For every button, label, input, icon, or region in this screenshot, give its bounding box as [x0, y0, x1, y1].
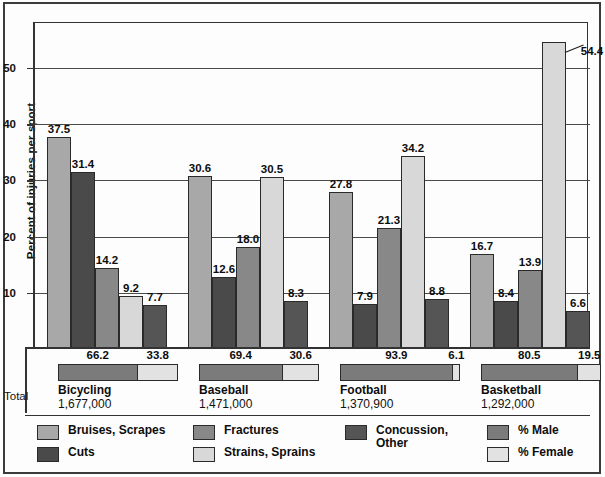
legend-item-percent-male[interactable]: % Male: [487, 424, 559, 440]
legend-label: Bruises, Scrapes: [68, 424, 165, 437]
female-segment: [282, 365, 318, 380]
legend-swatch-percent-female: [487, 447, 509, 462]
sport-name: Baseball: [199, 383, 319, 397]
bar-basketball-cuts: [494, 301, 518, 348]
legend-item-percent-female[interactable]: % Female: [487, 446, 573, 462]
bar-bicycling-cuts: [71, 172, 95, 348]
female-percent-label: 33.8: [147, 349, 169, 361]
plot-area: 1020304050 37.531.414.29.27.730.612.618.…: [33, 22, 588, 348]
sport-name: Bicycling: [58, 383, 178, 397]
bar-value-label: 9.2: [123, 282, 139, 294]
bar-value-label: 31.4: [72, 158, 94, 170]
bar-football-strains: [401, 156, 425, 348]
bar-value-label: 8.3: [288, 287, 304, 299]
gender-percent-row: 93.96.1: [340, 349, 460, 364]
legend-label: % Female: [518, 446, 573, 459]
bar-football-concussion: [425, 299, 449, 348]
gender-percent-row: 69.430.6: [199, 349, 319, 364]
bar-baseball-cuts: [212, 277, 236, 348]
bar-value-label: 27.8: [330, 178, 352, 190]
female-percent-label: 19.5: [578, 349, 600, 361]
bar-value-label: 7.9: [357, 290, 373, 302]
legend-item-concussion-other[interactable]: Concussion, Other: [345, 424, 448, 450]
female-segment: [452, 365, 459, 380]
bar-value-label: 37.5: [48, 123, 70, 135]
legend-item-bruises-scrapes[interactable]: Bruises, Scrapes: [37, 424, 165, 440]
male-segment: [200, 365, 282, 380]
bar-basketball-fractures: [518, 270, 542, 348]
male-percent-label: 93.9: [385, 349, 407, 361]
bar-football-bruises: [329, 192, 353, 348]
bar-bicycling-strains: [119, 296, 143, 348]
legend-label: Fractures: [224, 424, 279, 437]
bar-value-label: 18.0: [237, 233, 259, 245]
gender-stacked-bar: [199, 364, 319, 381]
legend: Bruises, ScrapesCutsFracturesStrains, Sp…: [25, 415, 590, 471]
male-percent-label: 80.5: [518, 349, 540, 361]
sport-name: Basketball: [481, 383, 601, 397]
bar-bicycling-bruises: [47, 137, 71, 348]
legend-item-cuts[interactable]: Cuts: [37, 446, 95, 462]
totals-strip: 66.233.8Bicycling1,677,00069.430.6Baseba…: [25, 349, 590, 413]
male-segment: [482, 365, 577, 380]
legend-item-fractures[interactable]: Fractures: [193, 424, 279, 440]
gender-stacked-bar: [58, 364, 178, 381]
injury-chart-figure: Percent of injuries per sport 1020304050…: [0, 0, 605, 477]
female-percent-label: 30.6: [289, 349, 311, 361]
legend-label: Concussion, Other: [376, 424, 448, 450]
female-segment: [577, 365, 600, 380]
gender-percent-row: 66.233.8: [58, 349, 178, 364]
sport-summary-bicycling: 66.233.8Bicycling1,677,000: [58, 349, 178, 411]
bar-value-label: 21.3: [378, 214, 400, 226]
bar-value-label: 13.9: [519, 256, 541, 268]
bar-football-fractures: [377, 228, 401, 348]
gridline-30: [35, 180, 590, 181]
y-tick-label: 30: [3, 174, 16, 186]
y-tick-20: 20: [27, 237, 34, 239]
gender-stacked-bar: [481, 364, 601, 381]
female-percent-label: 6.1: [448, 349, 464, 361]
bar-basketball-bruises: [470, 254, 494, 348]
bar-value-label: 8.8: [429, 285, 445, 297]
male-percent-label: 66.2: [87, 349, 109, 361]
bar-baseball-strains: [260, 177, 284, 348]
y-tick-label: 40: [3, 118, 16, 130]
legend-label: % Male: [518, 424, 559, 437]
bar-baseball-fractures: [236, 247, 260, 348]
male-segment: [341, 365, 452, 380]
sport-summary-football: 93.96.1Football1,370,900: [340, 349, 460, 411]
sport-summary-baseball: 69.430.6Baseball1,471,000: [199, 349, 319, 411]
sport-total-injuries: 1,292,000: [481, 397, 601, 411]
y-tick-50: 50: [27, 68, 34, 70]
bar-value-label: 16.7: [471, 240, 493, 252]
y-tick-10: 10: [27, 293, 34, 295]
bar-value-label: 8.4: [498, 287, 514, 299]
bar-value-label: 12.6: [213, 263, 235, 275]
legend-swatch-percent-male: [487, 425, 509, 440]
bar-baseball-bruises: [188, 176, 212, 348]
sport-total-injuries: 1,471,000: [199, 397, 319, 411]
legend-swatch-concussion-other: [345, 425, 367, 440]
legend-swatch-fractures: [193, 425, 215, 440]
bar-value-label: 30.6: [189, 162, 211, 174]
bar-basketball-concussion: [566, 311, 590, 348]
bar-value-label: 54.4: [581, 45, 603, 57]
legend-swatch-strains-sprains: [193, 447, 215, 462]
legend-swatch-bruises-scrapes: [37, 425, 59, 440]
bar-value-label: 30.5: [261, 163, 283, 175]
male-percent-label: 69.4: [229, 349, 251, 361]
gender-percent-row: 80.519.5: [481, 349, 601, 364]
sport-name: Football: [340, 383, 460, 397]
y-tick-30: 30: [27, 180, 34, 182]
sport-summary-basketball: 80.519.5Basketball1,292,000: [481, 349, 601, 411]
bar-value-label: 34.2: [402, 142, 424, 154]
y-tick-label: 10: [3, 287, 16, 299]
gender-stacked-bar: [340, 364, 460, 381]
bar-bicycling-concussion: [143, 305, 167, 348]
gridline-50: [35, 68, 590, 69]
legend-label: Strains, Sprains: [224, 446, 315, 459]
y-tick-40: 40: [27, 124, 34, 126]
y-tick-label: 50: [3, 62, 16, 74]
male-segment: [59, 365, 137, 380]
legend-item-strains-sprains[interactable]: Strains, Sprains: [193, 446, 315, 462]
